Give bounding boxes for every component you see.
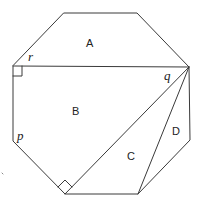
horizontal-chord — [13, 66, 189, 67]
diagonal-to-bottom-right — [138, 67, 189, 194]
region-label-d: D — [172, 125, 180, 137]
region-label-a: A — [86, 37, 94, 49]
right-angle-marker-upper-left — [13, 66, 22, 76]
angle-label-r: r — [28, 49, 34, 64]
stray-mark — [2, 173, 3, 174]
diagonal-to-bottom-left — [65, 67, 189, 194]
region-label-b: B — [72, 105, 79, 117]
right-angle-marker-bottom — [58, 180, 72, 187]
region-label-c: C — [127, 150, 135, 162]
angle-label-q: q — [164, 68, 171, 83]
octagon-diagram: A B C D r q p — [0, 0, 199, 203]
angle-label-p: p — [16, 128, 24, 143]
octagon-outline — [13, 13, 190, 194]
